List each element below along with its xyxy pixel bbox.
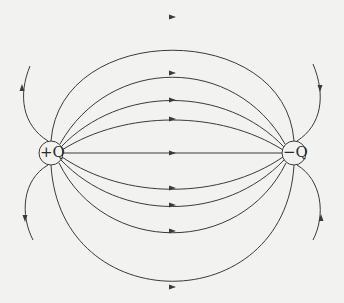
arrow-icon — [169, 151, 176, 156]
arrow-icon — [169, 15, 176, 20]
dipole-field-diagram: +Q −Q — [0, 0, 344, 303]
arrow-icon — [319, 214, 324, 221]
positive-charge-label: +Q — [40, 145, 65, 160]
field-line-top-2 — [61, 101, 284, 148]
arrow-icon — [169, 71, 176, 76]
field-line-left-down — [25, 165, 48, 240]
field-line-left-up — [24, 66, 48, 141]
arrow-icon — [169, 98, 176, 103]
field-line-top-outer — [51, 50, 294, 141]
arrow-icon — [169, 117, 176, 122]
field-line-right-down — [297, 64, 320, 141]
negative-charge-label: −Q — [283, 145, 308, 160]
field-line-top-1 — [62, 120, 283, 150]
arrow-icon — [169, 285, 176, 290]
field-line-bottom-1 — [62, 157, 283, 189]
field-line-bottom-2 — [61, 160, 284, 207]
field-line-right-up — [297, 165, 320, 240]
arrow-icon — [318, 85, 323, 92]
